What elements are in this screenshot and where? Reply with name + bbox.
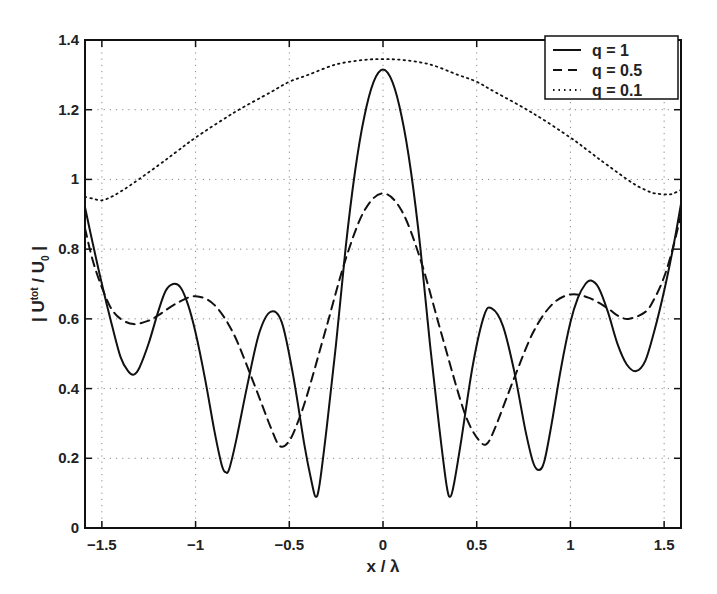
y-axis-label-open: | U [29,300,48,322]
y-tick-labels: 00.20.40.60.811.21.4 [58,31,80,536]
y-tick-label: 1.2 [58,101,79,118]
x-axis-label: x / λ [366,557,400,576]
y-axis-label: | Utot / U0 | [29,246,51,322]
legend-label: q = 0.1 [592,82,642,99]
y-tick-label: 0.4 [58,380,80,397]
y-tick-label: 0.8 [58,240,79,257]
x-tick-label: 1.5 [654,536,675,553]
x-tick-label: −1 [187,536,204,553]
y-axis-label-close: | [29,246,48,255]
legend-label: q = 1 [592,42,629,59]
y-tick-label: 0 [71,519,79,536]
y-axis-label-mid: / U [29,261,48,287]
x-tick-labels: −1.5−1−0.500.511.5 [87,536,675,553]
x-tick-label: 0.5 [466,536,487,553]
x-tick-label: −1.5 [87,536,117,553]
legend-label: q = 0.5 [592,62,642,79]
x-tick-label: −0.5 [274,536,304,553]
line-chart: −1.5−1−0.500.511.5 00.20.40.60.811.21.4 … [0,0,717,594]
y-tick-label: 1.4 [58,31,80,48]
legend: q = 1q = 0.5q = 0.1 [545,36,678,99]
y-axis-label-sup: tot [29,287,40,300]
y-tick-label: 0.2 [58,449,79,466]
x-tick-label: 1 [566,536,574,553]
y-tick-label: 1 [71,170,79,187]
y-tick-label: 0.6 [58,310,79,327]
x-tick-label: 0 [379,536,387,553]
